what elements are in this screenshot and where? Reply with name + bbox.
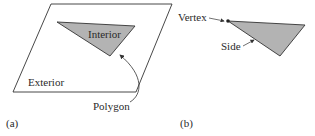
- polygon-label: Polygon: [93, 101, 130, 112]
- vertex-label: Vertex: [178, 12, 207, 23]
- vertex-dot: [226, 19, 230, 23]
- side-label: Side: [221, 41, 241, 52]
- exterior-label: Exterior: [28, 77, 64, 88]
- interior-label: Interior: [88, 29, 121, 40]
- side-pointer-arrow: [243, 40, 254, 46]
- polygon-pointer-arrow: [120, 55, 139, 102]
- vertex-pointer-arrow: [209, 18, 224, 21]
- caption-a: (a): [6, 118, 18, 129]
- caption-b: (b): [180, 118, 193, 129]
- diagram-canvas: [0, 0, 315, 136]
